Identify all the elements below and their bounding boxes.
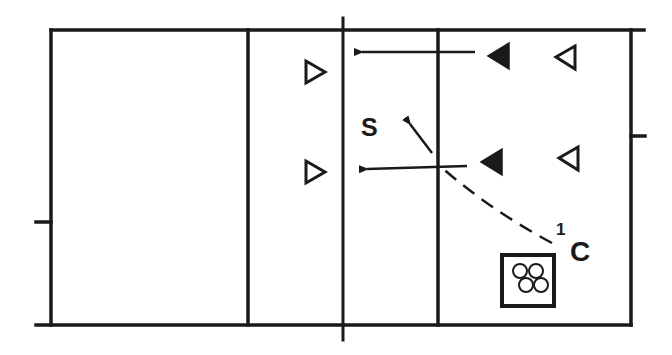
right-back-top-player-icon bbox=[556, 46, 575, 69]
set-arrow-icon bbox=[410, 124, 432, 153]
ball-icon bbox=[534, 278, 548, 292]
player-filled-triangle-icon bbox=[481, 43, 509, 175]
coach-toss-dashed-path bbox=[440, 166, 552, 243]
bottom-attack-arrow-icon bbox=[367, 166, 467, 169]
coach-number-label: 1 bbox=[556, 221, 565, 238]
coach-label: C bbox=[570, 238, 590, 266]
right-front-bottom-player-icon bbox=[481, 149, 502, 175]
movement-arrows bbox=[362, 52, 475, 169]
right-back-bottom-player-icon bbox=[559, 147, 578, 170]
left-bottom-player-icon bbox=[306, 161, 325, 183]
ball-icon bbox=[513, 264, 527, 278]
player-open-triangle-icon bbox=[306, 61, 325, 183]
right-front-top-player-icon bbox=[488, 43, 509, 69]
setter-label: S bbox=[361, 115, 378, 140]
ball-cart-icon bbox=[502, 255, 554, 306]
court-svg bbox=[0, 0, 672, 355]
ball-icon bbox=[519, 278, 533, 292]
ball-icon bbox=[529, 264, 543, 278]
court-diagram: S 1 C bbox=[0, 0, 672, 355]
player-open-triangle-icon bbox=[556, 46, 578, 170]
left-top-player-icon bbox=[306, 61, 325, 83]
